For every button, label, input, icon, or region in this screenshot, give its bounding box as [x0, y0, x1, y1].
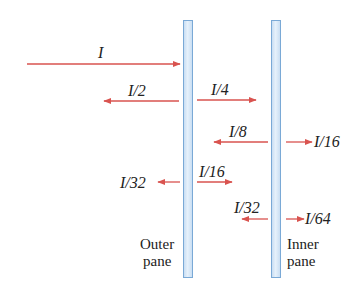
label-I64-out: I/64 — [305, 211, 331, 227]
label-I16-between: I/16 — [199, 164, 225, 180]
window-reflection-diagram: I I/2 I/4 I/8 I/16 I/32 I/16 I/32 I/64 O… — [0, 0, 364, 297]
label-I8: I/8 — [229, 124, 247, 140]
label-I32-between: I/32 — [234, 200, 260, 216]
label-I2: I/2 — [128, 83, 146, 99]
outer-pane — [183, 20, 193, 278]
inner-pane — [271, 20, 281, 278]
outer-pane-label: Outer pane — [140, 236, 174, 270]
label-I4: I/4 — [211, 82, 229, 98]
label-I16-out: I/16 — [314, 134, 340, 150]
label-I32-back: I/32 — [120, 175, 146, 191]
inner-pane-label: Inner pane — [287, 236, 319, 270]
label-I: I — [98, 45, 103, 61]
